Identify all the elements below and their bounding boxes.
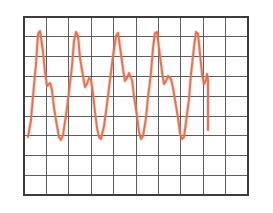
waveform-figure xyxy=(0,0,273,213)
waveform-plot-svg xyxy=(0,0,273,213)
